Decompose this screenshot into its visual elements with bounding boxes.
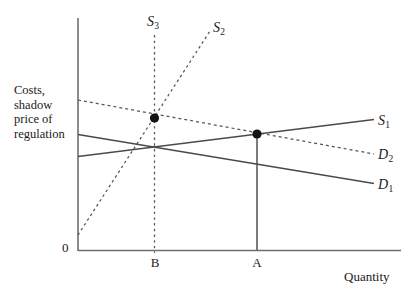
curve-s2-line bbox=[78, 31, 210, 235]
curve-label-d1: D1 bbox=[378, 177, 393, 194]
y-axis-label-line-4: regulation bbox=[14, 127, 65, 142]
curve-d2-line bbox=[78, 100, 374, 154]
equilibrium-point-a-marker bbox=[252, 129, 261, 138]
y-axis-label-line-3: price of bbox=[14, 112, 65, 127]
curve-label-s3: S3 bbox=[147, 14, 159, 31]
curve-label-s1-text: S bbox=[378, 113, 385, 128]
y-axis-label: Costs, shadow price of regulation bbox=[14, 83, 65, 141]
origin-label: 0 bbox=[62, 240, 69, 255]
figure-container: Costs, shadow price of regulation 0 B A … bbox=[0, 0, 411, 297]
curve-label-d2: D2 bbox=[378, 147, 393, 164]
x-tick-label-a: A bbox=[247, 255, 267, 270]
x-axis-label: Quantity bbox=[344, 269, 390, 284]
curve-label-s1-subscript: 1 bbox=[385, 120, 390, 130]
curve-label-s2-subscript: 2 bbox=[220, 27, 225, 37]
y-axis-label-line-2: shadow bbox=[14, 98, 65, 113]
x-tick-label-b: B bbox=[145, 255, 165, 270]
curve-label-s1: S1 bbox=[378, 113, 390, 130]
curve-s1-line bbox=[78, 120, 374, 157]
curve-label-s3-subscript: 3 bbox=[154, 21, 159, 31]
curve-label-d1-text: D bbox=[378, 177, 388, 192]
y-axis-label-line-1: Costs, bbox=[14, 83, 65, 98]
curve-label-d2-subscript: 2 bbox=[388, 154, 393, 164]
equilibrium-point-b-marker bbox=[150, 113, 159, 122]
curve-label-s2-text: S bbox=[213, 20, 220, 35]
curve-label-d2-text: D bbox=[378, 147, 388, 162]
axis-group bbox=[78, 18, 401, 251]
curve-label-d1-subscript: 1 bbox=[388, 184, 393, 194]
curve-label-s3-text: S bbox=[147, 14, 154, 29]
curve-label-s2: S2 bbox=[213, 20, 225, 37]
curve-d1-line bbox=[78, 135, 374, 184]
